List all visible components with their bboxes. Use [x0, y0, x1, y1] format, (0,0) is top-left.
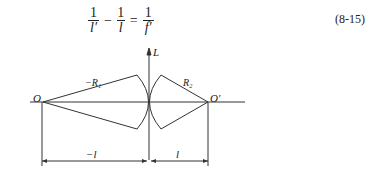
lens-diagram [0, 0, 387, 177]
left-radius-label: −R₁ [85, 77, 101, 88]
left-distance-label: −l [86, 148, 96, 160]
axis-label-L: L [153, 46, 159, 58]
right-distance-label: l [176, 148, 179, 160]
point-O-prime-label: O′ [210, 92, 220, 104]
axis-arrow-icon [147, 48, 151, 55]
right-radius-label: R₂ [183, 77, 193, 88]
point-O-label: O [33, 92, 41, 104]
